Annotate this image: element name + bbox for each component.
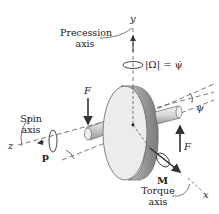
x-axis-label: x <box>203 190 209 200</box>
force-left-label: F <box>84 86 91 96</box>
y-axis-label: y <box>130 14 136 24</box>
left-angle-arc <box>66 150 74 159</box>
torque-axis-label-line1: Torque <box>136 186 180 196</box>
spin-axis-label: Spin axis <box>14 114 48 134</box>
z-axis-label: z <box>8 141 13 151</box>
disk <box>103 86 158 180</box>
gyroscope-diagram: y Precession axis |Ω| = ψ̇ F ψ Spin axis… <box>0 0 219 214</box>
torque-axis-label-line2: axis <box>136 197 180 207</box>
spin-axis-label-line1: Spin <box>14 114 48 124</box>
momentum-label: p <box>42 152 49 162</box>
precession-axis-label-line2: axis <box>60 39 110 49</box>
force-right-label: F <box>184 142 191 152</box>
precession-axis-label: Precession axis <box>60 28 110 48</box>
torque-axis-label: Torque axis <box>136 186 180 206</box>
psi-angle-label: ψ <box>196 103 204 113</box>
spin-axis-label-line2: axis <box>14 125 48 135</box>
precession-axis-label-line1: Precession <box>60 28 110 38</box>
omega-equation: |Ω| = ψ̇ <box>145 60 183 70</box>
right-shaft <box>155 106 182 124</box>
